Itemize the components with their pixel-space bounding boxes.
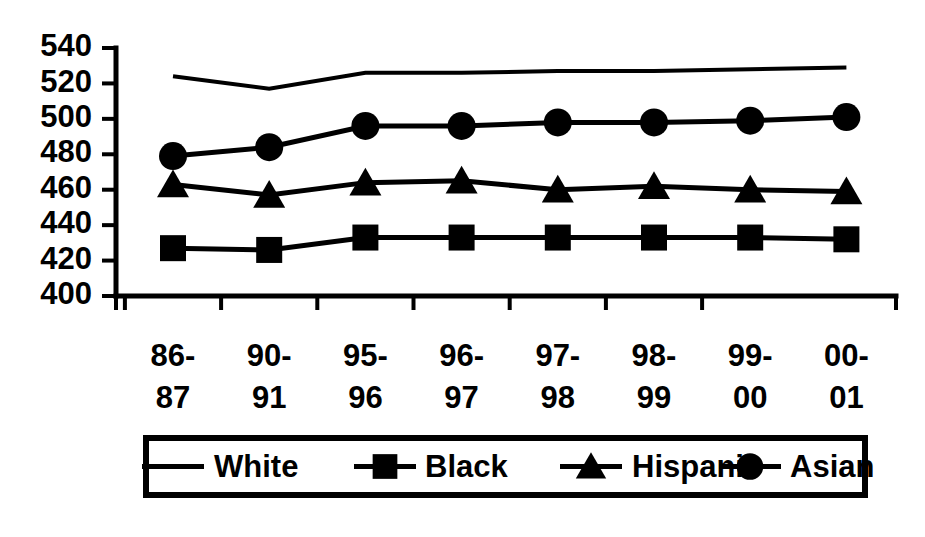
series-black-point-3-square-marker — [449, 225, 475, 251]
x-label-top-7: 00- — [824, 338, 869, 373]
x-label-bottom-1: 91 — [252, 380, 286, 415]
series-white — [173, 67, 846, 88]
x-label-bottom-6: 00 — [733, 380, 767, 415]
x-axis-label-95-96: 95-96 — [343, 338, 388, 415]
x-label-top-2: 95- — [343, 338, 388, 373]
x-label-bottom-0: 87 — [156, 380, 190, 415]
x-label-bottom-3: 97 — [444, 380, 478, 415]
x-label-bottom-5: 99 — [637, 380, 671, 415]
x-label-bottom-7: 01 — [829, 380, 863, 415]
x-axis-label-98-99: 98-99 — [632, 338, 677, 415]
series-black-point-5-square-marker — [641, 225, 667, 251]
x-label-top-0: 86- — [151, 338, 196, 373]
series-asian-point-5-circle-marker — [640, 108, 668, 136]
legend-key-black-square-marker — [373, 454, 398, 479]
y-axis-label-400: 400 — [40, 276, 92, 311]
x-axis-label-97-98: 97-98 — [535, 338, 580, 415]
series-asian-point-1-circle-marker — [255, 133, 283, 161]
series-black-point-6-square-marker — [737, 225, 763, 251]
series-asian-point-2-circle-marker — [351, 112, 379, 140]
series-hispanic — [157, 166, 862, 208]
x-label-top-1: 90- — [247, 338, 292, 373]
legend-label-asian: Asian — [790, 449, 874, 484]
x-label-top-6: 99- — [728, 338, 773, 373]
series-asian-point-0-circle-marker — [159, 142, 187, 170]
x-axis — [116, 296, 896, 310]
series-black-point-4-square-marker — [545, 225, 571, 251]
chart-canvas: 540520500480460440420400 86-8790-9195-96… — [0, 0, 925, 537]
series-asian-point-3-circle-marker — [448, 112, 476, 140]
x-axis-label-99-00: 99-00 — [728, 338, 773, 415]
y-tick-labels: 540520500480460440420400 — [40, 28, 92, 311]
x-axis-label-00-01: 00-01 — [824, 338, 869, 415]
y-axis-label-500: 500 — [40, 99, 92, 134]
series-black-point-2-square-marker — [352, 225, 378, 251]
legend-label-black: Black — [425, 449, 508, 484]
y-axis-label-440: 440 — [40, 205, 92, 240]
series-black — [160, 225, 859, 263]
x-axis-label-90-91: 90-91 — [247, 338, 292, 415]
y-axis-label-540: 540 — [40, 28, 92, 63]
x-label-top-3: 96- — [439, 338, 484, 373]
y-axis-label-480: 480 — [40, 134, 92, 169]
x-label-bottom-4: 98 — [541, 380, 575, 415]
series-black-point-1-square-marker — [256, 237, 282, 263]
series-black-point-0-square-marker — [160, 235, 186, 261]
series-asian — [159, 103, 860, 170]
series-asian-point-7-circle-marker — [832, 103, 860, 131]
series-asian-point-6-circle-marker — [736, 107, 764, 135]
x-tick-labels: 86-8790-9195-9696-9797-9898-9999-0000-01 — [151, 338, 869, 415]
x-label-top-4: 97- — [535, 338, 580, 373]
series-line-white — [173, 67, 846, 88]
data-series-group — [157, 67, 862, 262]
legend-label-white: White — [214, 449, 298, 484]
line-chart-container: 540520500480460440420400 86-8790-9195-96… — [0, 0, 925, 537]
x-axis-label-96-97: 96-97 — [439, 338, 484, 415]
y-axis-label-520: 520 — [40, 64, 92, 99]
legend-key-asian-circle-marker — [737, 453, 764, 480]
y-axis-label-420: 420 — [40, 241, 92, 276]
series-black-point-7-square-marker — [833, 226, 859, 252]
chart-legend: WhiteBlackHispanicAsian — [142, 438, 874, 495]
y-axis-label-460: 460 — [40, 170, 92, 205]
y-axis — [102, 48, 116, 296]
x-label-bottom-2: 96 — [348, 380, 382, 415]
series-asian-point-4-circle-marker — [544, 108, 572, 136]
x-axis-label-86-87: 86-87 — [151, 338, 196, 415]
x-label-top-5: 98- — [632, 338, 677, 373]
